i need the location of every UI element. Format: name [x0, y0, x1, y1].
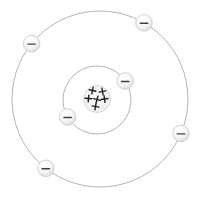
outer-shell-electron — [23, 35, 40, 52]
nucleus-texture-dot — [97, 91, 98, 92]
nucleus-texture-dot — [86, 97, 87, 98]
nucleus-texture-dot — [93, 92, 94, 93]
nucleus-texture-dot — [98, 95, 99, 96]
plus-vertical-stroke — [88, 95, 89, 102]
nucleus-texture-dot — [98, 104, 99, 105]
nucleus-texture-dot — [105, 96, 106, 97]
nucleus — [84, 86, 111, 113]
nucleus-texture-dot — [92, 102, 93, 103]
nucleus-texture-dot — [100, 96, 101, 97]
outer-shell-electron — [38, 160, 55, 177]
plus-vertical-stroke — [104, 96, 105, 103]
nucleus-texture-dot — [90, 95, 91, 96]
nucleus-texture-dot — [91, 107, 92, 108]
nucleus-texture-dot — [102, 106, 103, 107]
atom-diagram — [0, 0, 197, 197]
outer-shell-electron — [173, 125, 190, 142]
inner-shell-electron — [117, 73, 134, 90]
atom-diagram-canvas — [0, 0, 197, 197]
inner-shell-electron — [59, 109, 76, 126]
nucleus-texture-dot — [87, 103, 88, 104]
outer-shell-electron — [136, 14, 153, 31]
nucleus-texture-dot — [96, 94, 97, 95]
